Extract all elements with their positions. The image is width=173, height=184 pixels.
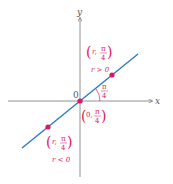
angle-num: π <box>102 83 107 91</box>
origin-label: 0 <box>73 90 79 100</box>
svg-text:r,: r, <box>52 138 57 146</box>
svg-text:0,: 0, <box>86 111 93 119</box>
svg-text:(: ( <box>86 44 91 60</box>
angle-den: 4 <box>102 92 107 100</box>
svg-text:4: 4 <box>101 54 106 62</box>
svg-text:π: π <box>61 135 66 143</box>
svg-text:(: ( <box>46 134 51 150</box>
point-upper <box>109 72 114 77</box>
point-lower <box>45 124 50 129</box>
svg-text:): ) <box>101 108 106 124</box>
y-axis-label: y <box>76 7 83 17</box>
svg-text:π: π <box>95 108 100 116</box>
upper-point-label: ( r, π 4 ) r > 0 <box>86 44 112 74</box>
svg-text:4: 4 <box>95 117 100 125</box>
svg-text:4: 4 <box>61 144 66 152</box>
point-origin <box>77 98 82 103</box>
svg-text:π: π <box>101 45 106 53</box>
angle-arc <box>96 89 100 101</box>
svg-text:): ) <box>107 44 112 60</box>
polar-diagram: x y 0 π 4 ( r, π 4 ) r > 0 ( 0, π 4 ) ( … <box>0 0 173 184</box>
origin-point-label: ( 0, π 4 ) <box>81 108 106 125</box>
lower-condition: r < 0 <box>52 156 71 164</box>
svg-text:): ) <box>67 134 72 150</box>
x-axis-label: x <box>155 96 160 106</box>
svg-text:r,: r, <box>92 48 97 56</box>
upper-condition: r > 0 <box>91 66 110 74</box>
lower-point-label: ( r, π 4 ) r < 0 <box>46 134 72 164</box>
